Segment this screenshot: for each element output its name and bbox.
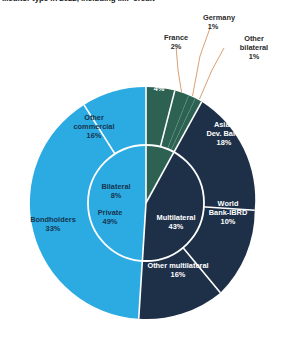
callout-label-other-bilateral-line1: Other	[244, 34, 264, 43]
inner-ring	[88, 145, 204, 261]
callout-label-other-bilateral-line2: bilateral	[240, 43, 268, 52]
callouts: France 2% Germany 1% Other bilateral 1%	[164, 13, 268, 99]
leader-line-other-bilateral	[200, 48, 225, 99]
pie-chart: Bilateral 8% Private 49% Multilateral 43…	[0, 0, 292, 342]
outer-label-japan-name: Japan	[148, 75, 170, 84]
callout-label-germany-value: 1%	[208, 22, 219, 31]
callout-label-france-value: 2%	[171, 42, 182, 51]
leader-line-france	[176, 46, 182, 92]
callout-label-other-bilateral-value: 1%	[249, 52, 260, 61]
callout-label-france-name: France	[164, 33, 188, 42]
leader-line-germany	[193, 28, 211, 96]
callout-label-germany-name: Germany	[203, 13, 236, 22]
